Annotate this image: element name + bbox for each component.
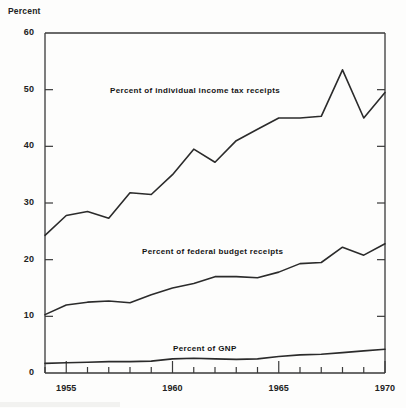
y-tick-label: 50 [14,84,34,94]
y-tick-label: 0 [14,367,34,377]
y-axis-ticks [45,90,53,317]
x-tick-label: 1965 [259,383,299,393]
series-label-income-tax: Percent of individual income tax receipt… [110,86,280,95]
y-tick-label: 60 [14,27,34,37]
y-tick-label: 30 [14,197,34,207]
y-tick-label: 20 [14,254,34,264]
x-tick-label: 1970 [365,383,405,393]
y-tick-label: 10 [14,310,34,320]
y-axis-ticks-right [377,90,385,317]
x-tick-label: 1955 [46,383,86,393]
x-tick-label: 1960 [153,383,193,393]
axis-frame [45,33,385,373]
data-series-lines [45,70,385,364]
y-tick-label: 40 [14,140,34,150]
series-label-gnp: Percent of GNP [173,344,237,353]
page-edge-artifact [0,402,120,407]
chart-figure: Percent 0102030405060 1955196019651970 P… [0,0,406,408]
y-axis-title: Percent [8,6,41,16]
series-label-federal-budget: Percent of federal budget receipts [142,247,283,256]
